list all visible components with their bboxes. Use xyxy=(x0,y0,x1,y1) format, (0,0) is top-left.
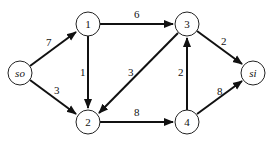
node-si: si xyxy=(241,61,265,85)
edge-2-4-weight: 8 xyxy=(134,106,140,118)
edge-so-2-weight: 3 xyxy=(54,84,60,96)
svg-text:si: si xyxy=(249,67,256,79)
network-diagram: 7 3 6 1 3 8 2 2 8 so 1 2 3 xyxy=(0,0,274,142)
node-1: 1 xyxy=(76,12,100,36)
edge-1-2-weight: 1 xyxy=(80,66,86,78)
svg-text:3: 3 xyxy=(184,18,190,30)
edge-4-si-weight: 8 xyxy=(217,85,223,97)
edge-3-2 xyxy=(99,33,178,113)
edge-1-3-weight: 6 xyxy=(134,8,140,20)
svg-text:2: 2 xyxy=(85,116,91,128)
edge-3-si-weight: 2 xyxy=(221,35,227,47)
svg-text:so: so xyxy=(15,67,25,79)
edge-3-si xyxy=(197,31,242,64)
svg-text:1: 1 xyxy=(85,18,91,30)
svg-text:4: 4 xyxy=(184,116,190,128)
edge-3-2-weight: 3 xyxy=(128,66,134,78)
edge-so-1-weight: 7 xyxy=(46,36,52,48)
edge-4-3-weight: 2 xyxy=(178,66,184,78)
edge-so-2 xyxy=(30,80,76,114)
node-so: so xyxy=(8,61,32,85)
node-4: 4 xyxy=(175,110,199,134)
node-3: 3 xyxy=(175,12,199,36)
node-2: 2 xyxy=(76,110,100,134)
edge-so-1 xyxy=(30,32,76,66)
